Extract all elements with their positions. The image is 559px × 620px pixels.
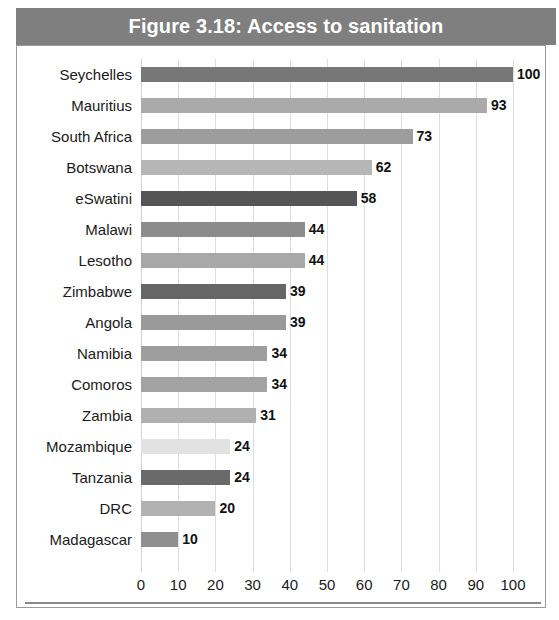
bar-row[interactable]: 34 — [141, 338, 543, 369]
bar-value-label: 20 — [215, 493, 235, 524]
bar-value-label: 24 — [230, 462, 250, 493]
category-label-row: Mauritius — [17, 90, 137, 121]
bar[interactable] — [141, 129, 413, 144]
x-tick-label-80: 80 — [430, 576, 447, 593]
axis-baseline — [25, 602, 541, 604]
figure-title-banner: Figure 3.18: Access to sanitation — [16, 8, 556, 45]
bar-value-label: 10 — [178, 524, 198, 555]
category-label-row: DRC — [17, 493, 137, 524]
bar[interactable] — [141, 346, 267, 361]
bar-value-label: 93 — [487, 90, 507, 121]
bar[interactable] — [141, 501, 215, 516]
category-label: South Africa — [51, 121, 132, 152]
bar-value-label: 39 — [286, 276, 306, 307]
category-label-row: South Africa — [17, 121, 137, 152]
bar[interactable] — [141, 67, 513, 82]
x-tick-label-40: 40 — [281, 576, 298, 593]
x-tick-label-60: 60 — [356, 576, 373, 593]
category-label: Lesotho — [79, 245, 132, 276]
bar-row[interactable]: 93 — [141, 90, 543, 121]
category-label: Zambia — [82, 400, 132, 431]
category-label-row: Botswana — [17, 152, 137, 183]
x-tick-label-90: 90 — [467, 576, 484, 593]
category-label-row: eSwatini — [17, 183, 137, 214]
category-label-row: Madagascar — [17, 524, 137, 555]
category-label: Mauritius — [71, 90, 132, 121]
category-label-row: Zimbabwe — [17, 276, 137, 307]
bar-value-label: 34 — [267, 369, 287, 400]
category-label: DRC — [100, 493, 133, 524]
bar-row[interactable]: 34 — [141, 369, 543, 400]
bar[interactable] — [141, 222, 305, 237]
x-tick-label-70: 70 — [393, 576, 410, 593]
bar-row[interactable]: 44 — [141, 214, 543, 245]
figure-container: Figure 3.18: Access to sanitation Seyche… — [0, 0, 559, 620]
bar-value-label: 24 — [230, 431, 250, 462]
bar[interactable] — [141, 315, 286, 330]
category-label: Tanzania — [72, 462, 132, 493]
category-label-row: Zambia — [17, 400, 137, 431]
bar[interactable] — [141, 191, 357, 206]
bar[interactable] — [141, 253, 305, 268]
plot-frame: SeychellesMauritiusSouth AfricaBotswanae… — [16, 45, 546, 608]
bar-chart: SeychellesMauritiusSouth AfricaBotswanae… — [17, 46, 547, 609]
category-label: Angola — [85, 307, 132, 338]
bar-value-label: 34 — [267, 338, 287, 369]
category-label-row: Seychelles — [17, 59, 137, 90]
page-title: Figure 3.18: Access to sanitation — [129, 15, 444, 38]
bar[interactable] — [141, 408, 256, 423]
category-label: Comoros — [71, 369, 132, 400]
bar-row[interactable]: 100 — [141, 59, 543, 90]
bar-value-label: 44 — [305, 214, 325, 245]
bar-row[interactable]: 10 — [141, 524, 543, 555]
bar-row[interactable]: 73 — [141, 121, 543, 152]
x-tick-label-50: 50 — [319, 576, 336, 593]
bar-value-label: 73 — [413, 121, 433, 152]
bar-value-label: 44 — [305, 245, 325, 276]
bars-container: 100937362584444393934343124242010 — [141, 59, 543, 559]
bar-row[interactable]: 24 — [141, 462, 543, 493]
category-label: Botswana — [66, 152, 132, 183]
x-tick-label-20: 20 — [207, 576, 224, 593]
bar-row[interactable]: 58 — [141, 183, 543, 214]
x-tick-label-10: 10 — [170, 576, 187, 593]
bar[interactable] — [141, 439, 230, 454]
bar[interactable] — [141, 532, 178, 547]
category-axis-labels: SeychellesMauritiusSouth AfricaBotswanae… — [17, 59, 137, 555]
bar-value-label: 58 — [357, 183, 377, 214]
category-label-row: Lesotho — [17, 245, 137, 276]
bar-row[interactable]: 39 — [141, 276, 543, 307]
x-tick-label-100: 100 — [500, 576, 525, 593]
x-tick-label-30: 30 — [244, 576, 261, 593]
category-label-row: Comoros — [17, 369, 137, 400]
bar-row[interactable]: 20 — [141, 493, 543, 524]
category-label-row: Namibia — [17, 338, 137, 369]
x-tick-label-0: 0 — [137, 576, 145, 593]
bar-value-label: 62 — [372, 152, 392, 183]
bar[interactable] — [141, 470, 230, 485]
bar-row[interactable]: 39 — [141, 307, 543, 338]
category-label: Mozambique — [46, 431, 132, 462]
category-label: Seychelles — [59, 59, 132, 90]
bar[interactable] — [141, 98, 487, 113]
bar-value-label: 100 — [513, 59, 540, 90]
category-label-row: Mozambique — [17, 431, 137, 462]
bar-value-label: 31 — [256, 400, 276, 431]
x-axis-ticks: 0102030405060708090100 — [141, 572, 543, 602]
category-label: Madagascar — [49, 524, 132, 555]
bar-value-label: 39 — [286, 307, 306, 338]
bar-row[interactable]: 31 — [141, 400, 543, 431]
category-label-row: Malawi — [17, 214, 137, 245]
category-label: Namibia — [77, 338, 132, 369]
bar-row[interactable]: 24 — [141, 431, 543, 462]
bar[interactable] — [141, 284, 286, 299]
category-label-row: Angola — [17, 307, 137, 338]
category-label: Zimbabwe — [63, 276, 132, 307]
bar-row[interactable]: 62 — [141, 152, 543, 183]
category-label: eSwatini — [75, 183, 132, 214]
category-label: Malawi — [85, 214, 132, 245]
bar[interactable] — [141, 377, 267, 392]
bar-row[interactable]: 44 — [141, 245, 543, 276]
bar[interactable] — [141, 160, 372, 175]
category-label-row: Tanzania — [17, 462, 137, 493]
